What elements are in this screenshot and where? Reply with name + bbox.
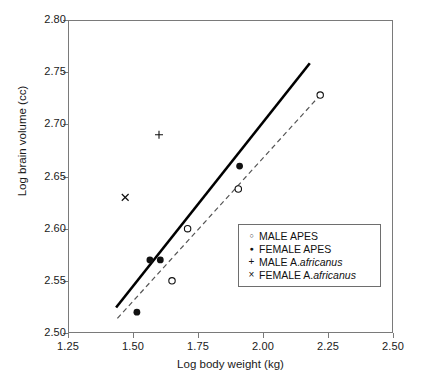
x-tick-mark xyxy=(393,333,394,338)
x-tick-label: 2.00 xyxy=(235,340,291,352)
y-tick-label: 2.80 xyxy=(20,13,66,25)
legend-item-1: ●FEMALE APES xyxy=(245,242,376,255)
chart-legend: ○MALE APES●FEMALE APES+MALE A. africanus… xyxy=(238,224,381,287)
x-axis-title: Log body weight (kg) xyxy=(68,358,393,370)
margin-notes xyxy=(0,286,13,384)
legend-species-name: africanus xyxy=(300,256,343,268)
legend-label: FEMALE A. xyxy=(258,269,313,281)
legend-marker-cross-icon: × xyxy=(245,269,258,280)
x-tick-label: 2.50 xyxy=(365,340,421,352)
data-point-filled-circle xyxy=(236,163,243,170)
x-tick-label: 2.25 xyxy=(300,340,356,352)
legend-marker-filled-circle-icon: ● xyxy=(245,245,258,252)
x-tick-mark xyxy=(68,333,69,338)
legend-item-2: +MALE A. africanus xyxy=(245,255,376,268)
y-tick-label: 2.55 xyxy=(20,274,66,286)
x-tick-mark xyxy=(263,333,264,338)
x-tick-label: 1.25 xyxy=(40,340,96,352)
legend-species-name: africanus xyxy=(313,269,356,281)
x-tick-label: 1.50 xyxy=(105,340,161,352)
x-tick-mark xyxy=(133,333,134,338)
y-tick-label: 2.50 xyxy=(20,326,66,338)
chart-page: 2.502.552.602.652.702.752.801.251.501.75… xyxy=(0,0,425,389)
legend-label: FEMALE APES xyxy=(258,243,331,255)
data-point-cross xyxy=(122,194,129,201)
legend-item-3: ×FEMALE A. africanus xyxy=(245,268,376,281)
data-point-open-circle xyxy=(184,225,190,231)
y-axis-title: Log brain volume (cc) xyxy=(16,51,28,231)
legend-label: MALE A. xyxy=(258,256,300,268)
x-tick-mark xyxy=(198,333,199,338)
legend-item-0: ○MALE APES xyxy=(245,229,376,242)
legend-marker-open-circle-icon: ○ xyxy=(245,232,258,239)
data-point-filled-circle xyxy=(147,257,154,264)
legend-marker-plus-icon: + xyxy=(245,256,258,267)
data-point-open-circle xyxy=(235,186,241,192)
x-tick-label: 1.75 xyxy=(170,340,226,352)
data-point-open-circle xyxy=(317,92,323,98)
x-tick-mark xyxy=(328,333,329,338)
data-point-filled-circle xyxy=(157,257,164,264)
data-point-open-circle xyxy=(169,278,175,284)
legend-label: MALE APES xyxy=(258,230,318,242)
data-point-filled-circle xyxy=(134,309,141,316)
data-point-plus xyxy=(155,131,163,139)
